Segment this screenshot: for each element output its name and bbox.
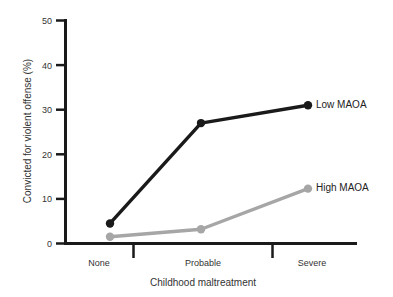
y-tick-label-40: 40 <box>42 61 52 71</box>
x-tick-label-none: None <box>88 258 110 268</box>
line-chart: 50 40 30 20 10 0 None Probable Severe Ch… <box>0 0 393 297</box>
y-axis-title: Convicted for violent offense (%) <box>22 59 33 203</box>
data-point-high-probable <box>197 225 205 233</box>
x-axis-title: Childhood maltreatment <box>150 277 256 288</box>
data-point-high-none <box>106 233 114 241</box>
chart-figure: 50 40 30 20 10 0 None Probable Severe Ch… <box>0 0 393 297</box>
y-tick-label-20: 20 <box>42 150 52 160</box>
series-line-low-maoa <box>110 105 308 223</box>
y-tick-label-50: 50 <box>42 16 52 26</box>
series-line-high-maoa <box>110 189 308 237</box>
y-tick-label-30: 30 <box>42 105 52 115</box>
data-point-low-none <box>106 219 114 227</box>
series-label-low-maoa: Low MAOA <box>316 99 367 110</box>
y-tick-label-0: 0 <box>47 239 52 249</box>
series-label-high-maoa: High MAOA <box>316 182 369 193</box>
y-tick-label-10: 10 <box>42 194 52 204</box>
x-tick-label-probable: Probable <box>185 258 221 268</box>
data-point-high-severe <box>304 184 312 192</box>
x-tick-label-severe: Severe <box>298 258 327 268</box>
data-point-low-severe <box>304 101 312 109</box>
data-point-low-probable <box>197 119 205 127</box>
